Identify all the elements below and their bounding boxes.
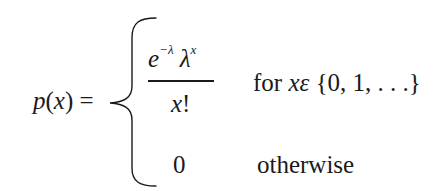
function-name: p <box>33 87 46 114</box>
condition-var: x <box>288 69 299 96</box>
fraction-numerator: e−λ λx <box>148 44 196 78</box>
factorial-sign: ! <box>182 90 190 117</box>
exponent-x: x <box>191 42 197 57</box>
element-of-symbol: ε <box>300 69 310 96</box>
exponent-neg-lambda: −λ <box>159 42 173 57</box>
condition-set: {0, 1, . . .} <box>309 69 421 96</box>
euler-e: e <box>148 45 159 72</box>
case2-condition: otherwise <box>257 150 354 180</box>
case2-value: 0 <box>173 150 186 180</box>
case1-condition: for xε {0, 1, . . .} <box>253 68 421 98</box>
denominator-var: x <box>171 90 182 117</box>
lambda: λ <box>174 45 191 72</box>
function-argument: x <box>54 87 65 114</box>
fraction-denominator: x! <box>171 89 190 119</box>
left-curly-brace-icon <box>106 16 158 188</box>
formula-lhs: p(x) = <box>33 86 94 116</box>
condition-for: for <box>253 69 288 96</box>
fraction-bar <box>148 80 214 82</box>
paren-open: ( <box>46 87 54 114</box>
equals-sign: = <box>73 87 93 114</box>
